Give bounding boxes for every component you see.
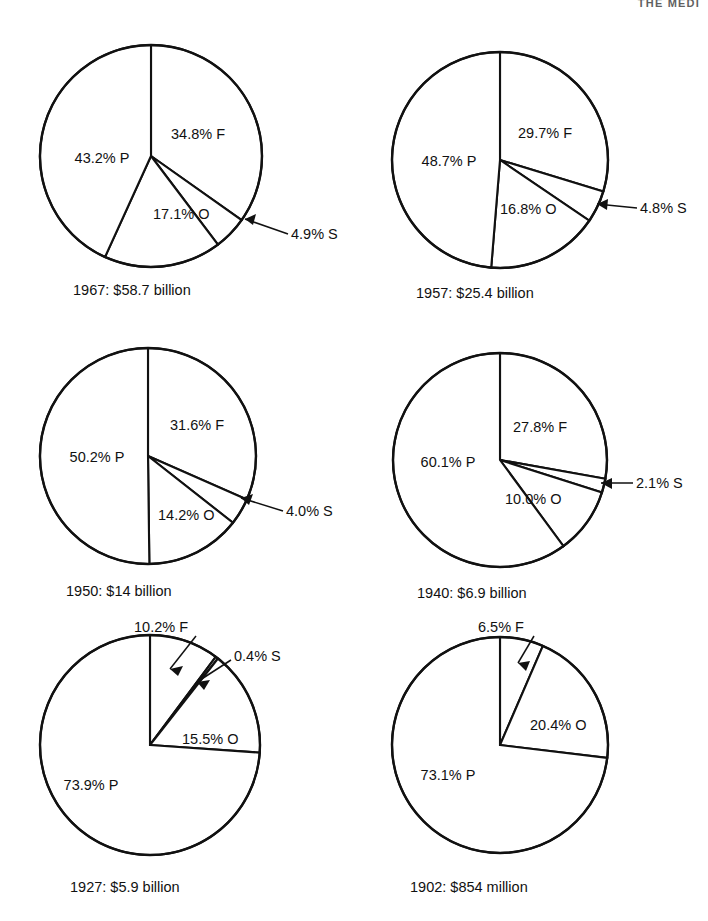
pie-svg-1967: 34.8% F 43.2% P 17.1% O 4.9% S 1967: $58… — [0, 20, 354, 320]
slice-label-p: 43.2% P — [75, 150, 130, 166]
slice-label-o: 16.8% O — [500, 201, 556, 217]
pie-chart-1927: 10.2% F 0.4% S 15.5% O 73.9% P 1927: $5.… — [0, 620, 354, 921]
figure-root: THE MEDI 34.8% F 43.2% P 17.1% O 4.9% S … — [0, 0, 708, 921]
slice-label-s: 4.0% S — [286, 503, 333, 519]
slice-label-f: 29.7% F — [518, 125, 572, 141]
slice-label-f: 6.5% F — [478, 619, 524, 635]
slice-label-f: 10.2% F — [134, 619, 188, 635]
slice-label-o: 20.4% O — [530, 717, 586, 733]
slice-label-p: 48.7% P — [422, 153, 477, 169]
slice-label-o: 10.0% O — [505, 491, 561, 507]
pie-svg-1957: 29.7% F 48.7% P 16.8% O 4.8% S 1957: $25… — [354, 20, 708, 320]
slice-label-s: 4.9% S — [291, 226, 338, 242]
chart-caption: 1967: $58.7 billion — [73, 282, 191, 298]
slice-label-f: 31.6% F — [170, 417, 224, 433]
chart-caption: 1902: $854 million — [410, 879, 528, 895]
pie-svg-1940: 27.8% F 60.1% P 10.0% O 2.1% S 1940: $6.… — [354, 320, 708, 620]
pie-svg-1902: 6.5% F 20.4% O 73.1% P 1902: $854 millio… — [354, 620, 708, 921]
slice-label-s: 4.8% S — [640, 200, 687, 216]
chart-caption: 1950: $14 billion — [66, 583, 172, 599]
slice-label-s: 0.4% S — [234, 648, 281, 664]
slice-label-p: 60.1% P — [421, 454, 476, 470]
slice-label-p: 50.2% P — [70, 449, 125, 465]
leader-s — [241, 494, 283, 511]
pie-svg-1950: 31.6% F 50.2% P 14.2% O 4.0% S 1950: $14… — [0, 320, 354, 620]
slice-label-f: 27.8% F — [513, 419, 567, 435]
pie-svg-1927: 10.2% F 0.4% S 15.5% O 73.9% P 1927: $5.… — [0, 620, 354, 921]
chart-caption: 1940: $6.9 billion — [417, 585, 527, 601]
pie-chart-1967: 34.8% F 43.2% P 17.1% O 4.9% S 1967: $58… — [0, 20, 354, 320]
pie-chart-1940: 27.8% F 60.1% P 10.0% O 2.1% S 1940: $6.… — [354, 320, 708, 620]
chart-caption: 1927: $5.9 billion — [70, 879, 180, 895]
slice-label-o: 14.2% O — [158, 507, 214, 523]
leader-s — [245, 214, 288, 234]
slice-label-o: 15.5% O — [182, 731, 238, 747]
pie-chart-1957: 29.7% F 48.7% P 16.8% O 4.8% S 1957: $25… — [354, 20, 708, 320]
running-head: THE MEDI — [638, 0, 700, 9]
pie-chart-1902: 6.5% F 20.4% O 73.1% P 1902: $854 millio… — [354, 620, 708, 921]
leader-s — [597, 199, 637, 210]
slice-label-s: 2.1% S — [636, 475, 683, 491]
slice-label-p: 73.1% P — [421, 767, 476, 783]
pie-chart-1950: 31.6% F 50.2% P 14.2% O 4.0% S 1950: $14… — [0, 320, 354, 620]
slice-label-o: 17.1% O — [153, 206, 209, 222]
slice-label-f: 34.8% F — [171, 126, 225, 142]
slice-label-p: 73.9% P — [64, 777, 119, 793]
wedge-f — [500, 353, 607, 479]
chart-caption: 1957: $25.4 billion — [416, 285, 534, 301]
